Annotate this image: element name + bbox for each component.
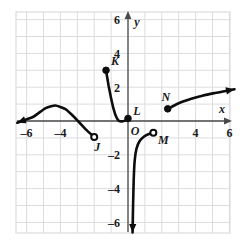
y-tick-label-6: 6 bbox=[114, 13, 120, 27]
coordinate-plane-graph: –6–446642–2–4–6xyOJKLMN bbox=[0, 0, 244, 247]
point-label-M: M bbox=[157, 133, 169, 147]
x-tick-label--6: –6 bbox=[20, 126, 33, 140]
curve-branch-K-L bbox=[106, 70, 128, 121]
y-tick-label-2: 2 bbox=[114, 81, 120, 95]
curve-branch-M bbox=[133, 133, 154, 233]
x-tick-label--4: –4 bbox=[53, 126, 66, 140]
point-label-N: N bbox=[160, 90, 171, 104]
point-marker-M bbox=[150, 130, 156, 136]
point-label-J: J bbox=[93, 140, 101, 154]
x-axis-arrow-right bbox=[224, 118, 232, 125]
y-tick-label--6: –6 bbox=[107, 216, 120, 230]
point-label-L: L bbox=[132, 104, 140, 118]
x-tick-label-4: 4 bbox=[193, 126, 199, 140]
y-tick-label--2: –2 bbox=[107, 148, 120, 162]
arrowhead-branch-J-start bbox=[17, 116, 26, 123]
x-tick-label-6: 6 bbox=[226, 126, 232, 140]
x-axis-label: x bbox=[218, 102, 225, 116]
point-marker-L bbox=[125, 115, 132, 122]
graph-canvas: –6–446642–2–4–6xyOJKLMN bbox=[0, 0, 244, 247]
y-tick-label--4: –4 bbox=[107, 182, 120, 196]
curve-branches bbox=[17, 70, 234, 232]
point-label-K: K bbox=[110, 54, 120, 68]
y-axis-label: y bbox=[132, 15, 140, 29]
arrowhead-branch-M-start bbox=[129, 224, 136, 233]
point-marker-N bbox=[164, 106, 171, 113]
origin-label: O bbox=[131, 124, 140, 138]
point-marker-K bbox=[103, 67, 110, 74]
